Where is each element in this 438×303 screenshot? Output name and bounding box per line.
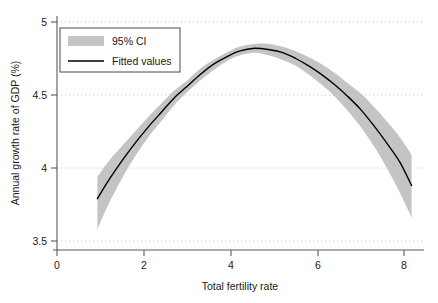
y-tick-label-4-5: 4.5: [32, 89, 47, 101]
y-tick-label-3-5: 3.5: [32, 235, 47, 247]
x-tick-label-0: 0: [54, 259, 60, 271]
x-axis-title: Total fertility rate: [202, 280, 279, 292]
x-tick-label-6: 6: [315, 259, 321, 271]
x-tick-label-8: 8: [401, 259, 407, 271]
chart-container: 5 4.5 4 3.5 0 2 4 6 8 Total fertility ra…: [0, 0, 438, 303]
y-tick-label-5: 5: [41, 16, 47, 28]
fertility-gdp-chart: 5 4.5 4 3.5 0 2 4 6 8 Total fertility ra…: [0, 0, 438, 303]
legend: 95% CI Fitted values: [60, 28, 180, 72]
legend-swatch-ci-band: [68, 36, 104, 46]
legend-label-fitted: Fitted values: [112, 55, 172, 67]
y-axis-title: Annual growth rate of GDP (%): [9, 61, 21, 206]
y-tick-label-4: 4: [41, 162, 47, 174]
x-tick-label-4: 4: [228, 259, 234, 271]
x-tick-label-2: 2: [141, 259, 147, 271]
legend-label-ci: 95% CI: [112, 35, 146, 47]
